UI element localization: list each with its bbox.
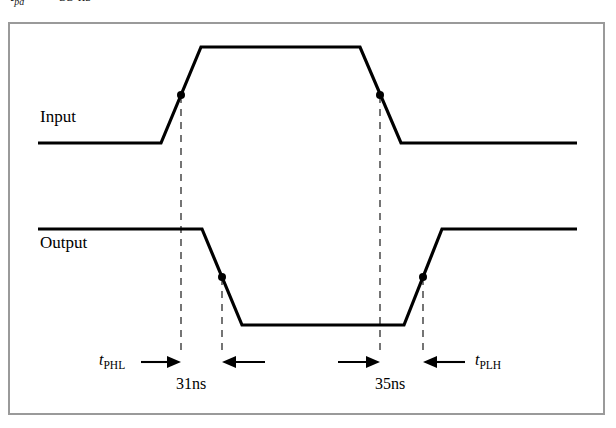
- arrow-head-35ns: [366, 356, 380, 368]
- marker-output-rise-midpoint: [419, 273, 427, 281]
- arrow-head-31ns: [222, 356, 236, 368]
- figure-root: tpd = 33 ns Input Output: [0, 0, 616, 428]
- t-plh-subscript: PLH: [479, 359, 501, 371]
- marker-input-rise-midpoint: [177, 91, 185, 99]
- input-signal-label: Input: [40, 107, 76, 127]
- arrow-head-tphl: [167, 356, 181, 368]
- t-phl-label: tPHL: [99, 351, 125, 371]
- measurement-right-label: 35ns: [375, 375, 405, 393]
- output-signal-label: Output: [40, 233, 87, 253]
- arrow-head-tplh: [423, 356, 437, 368]
- input-waveform: [38, 47, 577, 143]
- timing-diagram-canvas: [0, 0, 616, 428]
- measurement-left-label: 31ns: [176, 375, 206, 393]
- t-plh-label: tPLH: [475, 351, 501, 371]
- marker-input-fall-midpoint: [376, 91, 384, 99]
- t-phl-subscript: PHL: [103, 359, 125, 371]
- marker-output-fall-midpoint: [218, 273, 226, 281]
- output-waveform: [38, 229, 577, 325]
